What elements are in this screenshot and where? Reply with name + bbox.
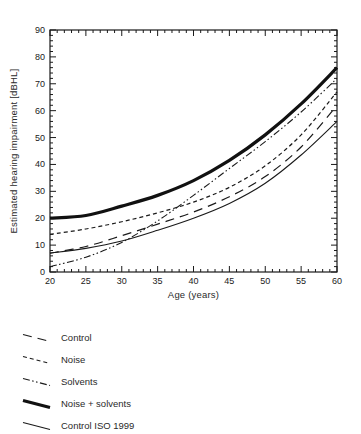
- x-tick-label: 60: [332, 276, 342, 286]
- plot-frame: [50, 30, 337, 272]
- y-tick-label: 80: [35, 52, 45, 62]
- legend-item-solvents: Solvents: [22, 375, 134, 388]
- x-tick-label: 50: [260, 276, 270, 286]
- series-control-iso-1999: [50, 121, 337, 253]
- legend-label: Noise + solvents: [61, 398, 131, 409]
- y-tick-label: 20: [35, 213, 45, 223]
- legend-sample-control-icon: [22, 332, 52, 344]
- legend-label: Solvents: [61, 376, 97, 387]
- legend-item-control: Control: [22, 331, 134, 344]
- y-tick-label: 50: [35, 133, 45, 143]
- x-tick-label: 35: [153, 276, 163, 286]
- legend-item-control-iso-1999: Control ISO 1999: [22, 419, 134, 432]
- legend: ControlNoiseSolventsNoise + solventsCont…: [22, 331, 134, 434]
- y-tick-label: 40: [35, 159, 45, 169]
- y-tick-label: 10: [35, 240, 45, 250]
- legend-sample-noise-icon: [22, 354, 52, 366]
- legend-label: Control ISO 1999: [61, 420, 134, 431]
- legend-sample-noise-solvents-icon: [22, 398, 52, 410]
- x-tick-label: 45: [224, 276, 234, 286]
- x-tick-label: 20: [45, 276, 55, 286]
- legend-sample-control-iso-1999-icon: [22, 420, 52, 432]
- x-tick-label: 40: [188, 276, 198, 286]
- y-tick-label: 70: [35, 79, 45, 89]
- x-axis-label: Age (years): [50, 289, 337, 300]
- y-tick-label: 60: [35, 106, 45, 116]
- x-tick-label: 25: [81, 276, 91, 286]
- y-tick-label: 0: [40, 267, 45, 277]
- x-tick-label: 30: [117, 276, 127, 286]
- chart-canvas: 2025303540455055600102030405060708090: [0, 0, 361, 310]
- x-tick-label: 55: [296, 276, 306, 286]
- legend-item-noise: Noise: [22, 353, 134, 366]
- y-tick-label: 90: [35, 25, 45, 35]
- series-solvents: [50, 78, 337, 266]
- y-tick-label: 30: [35, 186, 45, 196]
- legend-label: Control: [61, 332, 92, 343]
- y-axis-label: Estimated hearing impairment [dBHL]: [8, 30, 20, 272]
- legend-item-noise-solvents: Noise + solvents: [22, 397, 134, 410]
- legend-sample-solvents-icon: [22, 376, 52, 388]
- legend-label: Noise: [61, 354, 85, 365]
